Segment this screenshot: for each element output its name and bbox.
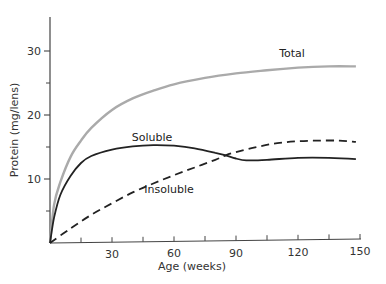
- insoluble-curve: [50, 140, 356, 243]
- y-tick-label: 10: [27, 173, 41, 186]
- x-axis-title: Age (weeks): [158, 260, 226, 273]
- axes: 102030 306090120150: [27, 17, 371, 261]
- x-tick-label: 150: [350, 245, 371, 258]
- x-tick-label: 120: [288, 246, 309, 259]
- soluble-curve: [50, 145, 356, 243]
- insoluble-label: Insoluble: [144, 183, 194, 196]
- x-tick-label: 30: [105, 248, 119, 261]
- y-ticks: 102030: [27, 45, 50, 211]
- x-tick-label: 90: [229, 247, 243, 260]
- x-ticks: 306090120150: [81, 234, 371, 261]
- total-label: Total: [278, 47, 305, 60]
- soluble-label: Soluble: [132, 131, 173, 144]
- y-axis-title: Protein (mg/lens): [8, 83, 21, 178]
- y-tick-label: 30: [27, 45, 41, 58]
- protein-age-chart: 102030 306090120150 Age (weeks) Protein …: [0, 0, 386, 284]
- y-tick-label: 20: [27, 109, 41, 122]
- x-tick-label: 60: [167, 247, 181, 260]
- curves: [50, 66, 356, 243]
